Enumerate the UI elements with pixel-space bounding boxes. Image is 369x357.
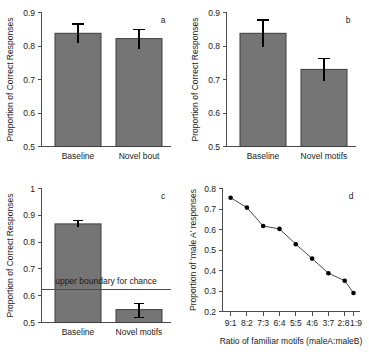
ytick-label-d-3: 0.5 (204, 245, 216, 255)
ylabel-a: Proportion of Correct Responses (5, 18, 15, 142)
xtick-label-d-2: 7:3 (257, 318, 269, 328)
data-point-d-0 (228, 195, 233, 200)
ytick-label-a-1: 0.6 (23, 108, 35, 118)
ytick-label-d-2: 0.4 (204, 266, 216, 276)
panel-b-bars (240, 33, 347, 146)
xlabel-d: Ratio of familiar motifs (maleA:maleB) (220, 336, 363, 346)
panel-d-xticks (231, 312, 354, 316)
data-point-d-4 (294, 242, 299, 247)
xtick-label-d-8: 1:9 (350, 318, 362, 328)
chart-panel-d: 0.2 0.3 0.4 0.5 0.6 0.7 0.8 (185, 178, 369, 357)
figure-container: 0.5 0.6 0.7 0.8 0.9 Baseline (0, 0, 369, 357)
panel-a-plot: 0.5 0.6 0.7 0.8 0.9 Baseline (0, 0, 185, 178)
panel-c-bars (55, 224, 162, 323)
ytick-label-b-4: 0.9 (208, 8, 220, 18)
data-point-d-1 (245, 205, 250, 210)
panel-d-plot: 0.2 0.3 0.4 0.5 0.6 0.7 0.8 (185, 178, 369, 357)
xtick-label-d-4: 5:5 (290, 318, 302, 328)
data-point-d-8 (351, 291, 356, 296)
panel-a-bars (55, 33, 162, 146)
ytick-label-c-1: 0.6 (23, 291, 35, 301)
ytick-label-d-0: 0.2 (204, 307, 216, 317)
bar-b-baseline (240, 33, 286, 146)
panel-d-yticks (219, 189, 223, 312)
chart-panel-c: 0.5 0.6 0.7 0.8 0.9 1 (0, 178, 185, 357)
ytick-label-b-1: 0.6 (208, 108, 220, 118)
xtick-label-d-6: 3:7 (322, 318, 334, 328)
chart-panel-b: 0.5 0.6 0.7 0.8 0.9 Baseline (185, 0, 369, 178)
panel-letter-b: b (346, 15, 351, 25)
data-point-d-3 (277, 227, 282, 232)
xtick-label-d-5: 4:6 (306, 318, 318, 328)
xtick-label-b-1: Novel motifs (301, 151, 348, 161)
bar-b-novel-motifs (301, 69, 347, 146)
panel-d-series (228, 195, 355, 295)
data-point-d-5 (310, 256, 315, 261)
panel-a-yticks (38, 13, 42, 147)
panel-letter-c: c (161, 191, 166, 201)
chart-panel-a: 0.5 0.6 0.7 0.8 0.9 Baseline (0, 0, 185, 178)
ytick-label-a-4: 0.9 (23, 8, 35, 18)
ytick-label-b-0: 0.5 (208, 142, 220, 152)
bar-a-baseline (55, 33, 101, 146)
xtick-label-d-1: 8:2 (241, 318, 253, 328)
ytick-label-b-2: 0.7 (208, 75, 220, 85)
xtick-label-c-1: Novel motifs (116, 327, 163, 337)
xtick-label-d-0: 9:1 (225, 318, 237, 328)
panel-c-yticks (38, 189, 42, 323)
series-line-d (231, 198, 354, 293)
ytick-label-c-2: 0.7 (23, 264, 35, 274)
ytick-label-c-5: 1 (30, 184, 35, 194)
panel-c-plot: 0.5 0.6 0.7 0.8 0.9 1 (0, 178, 185, 357)
bar-c-baseline (55, 224, 101, 323)
xtick-label-a-0: Baseline (62, 151, 95, 161)
xtick-label-c-0: Baseline (62, 327, 95, 337)
ytick-label-d-4: 0.6 (204, 225, 216, 235)
panel-letter-d: d (349, 191, 354, 201)
ylabel-d: Proportion of 'male A' responses (188, 189, 198, 311)
ytick-label-a-0: 0.5 (23, 142, 35, 152)
xtick-label-b-0: Baseline (247, 151, 280, 161)
axis-lines-d (223, 189, 360, 312)
ytick-label-b-3: 0.8 (208, 41, 220, 51)
xtick-label-a-1: Novel bout (119, 151, 160, 161)
xtick-label-d-7: 2:8 (338, 318, 350, 328)
ytick-label-c-0: 0.5 (23, 318, 35, 328)
panel-b-plot: 0.5 0.6 0.7 0.8 0.9 Baseline (185, 0, 369, 178)
ytick-label-c-3: 0.8 (23, 237, 35, 247)
panel-d-axes: 0.2 0.3 0.4 0.5 0.6 0.7 0.8 (204, 184, 362, 329)
ytick-label-d-6: 0.8 (204, 184, 216, 194)
ylabel-b: Proportion of Correct Responses (190, 18, 200, 142)
ylabel-c: Proportion of Correct Responses (5, 194, 15, 318)
ytick-label-d-1: 0.3 (204, 286, 216, 296)
bar-a-novel-bout (116, 39, 162, 147)
data-point-d-2 (261, 224, 266, 229)
panel-letter-a: a (161, 15, 166, 25)
data-point-d-6 (326, 271, 331, 276)
xtick-label-d-3: 6:4 (274, 318, 286, 328)
data-point-d-7 (342, 278, 347, 283)
ytick-label-d-5: 0.7 (204, 204, 216, 214)
ytick-label-c-4: 0.9 (23, 210, 35, 220)
ytick-label-a-3: 0.8 (23, 41, 35, 51)
ytick-label-a-2: 0.7 (23, 75, 35, 85)
chance-boundary-label: upper boundary for chance (55, 276, 157, 286)
panel-b-yticks (223, 13, 227, 147)
